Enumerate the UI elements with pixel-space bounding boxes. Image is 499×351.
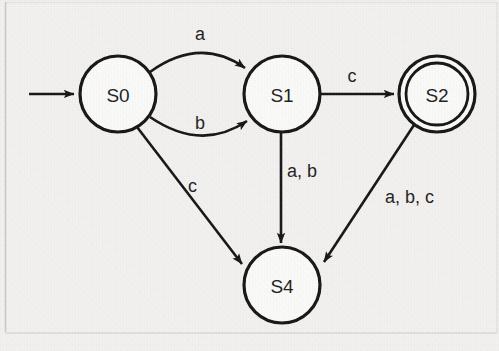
state-label-s0: S0 <box>106 85 129 106</box>
state-machine-diagram: S0 S1 S2 S4 a b c a, b c a, b, c <box>0 0 499 351</box>
edge-label-s0-s4-c: c <box>188 176 197 196</box>
state-label-s1: S1 <box>270 85 293 106</box>
edge-s0-s1-a <box>150 53 245 72</box>
state-node-s2-accepting[interactable]: S2 <box>399 56 475 132</box>
state-label-s2: S2 <box>425 85 448 106</box>
diagram-canvas: S0 S1 S2 S4 a b c a, b c a, b, c <box>0 0 499 351</box>
edge-label-s2-s4-abc: a, b, c <box>385 187 434 207</box>
edge-label-s1-s2-c: c <box>348 66 357 86</box>
state-node-s1[interactable]: S1 <box>244 56 320 132</box>
edge-label-s0-s1-a: a <box>195 24 206 44</box>
state-label-s4: S4 <box>270 276 294 297</box>
edge-label-s0-s1-b: b <box>195 113 205 133</box>
state-node-s4[interactable]: S4 <box>244 247 320 323</box>
state-node-s0[interactable]: S0 <box>80 56 156 132</box>
edge-label-s1-s4-ab: a, b <box>287 161 317 181</box>
